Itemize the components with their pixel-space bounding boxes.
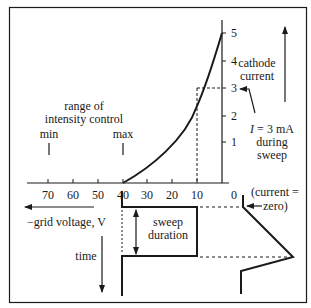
x-tick-60: 60 xyxy=(67,188,79,202)
grid-voltage-waveform xyxy=(122,191,197,296)
annotation-leader-line xyxy=(240,89,255,113)
cathode-label: cathode xyxy=(238,56,275,70)
y-tick-3: 3 xyxy=(231,81,237,95)
y-tick-2: 2 xyxy=(231,109,237,123)
x-tick-20: 20 xyxy=(166,188,178,202)
x-axis-tick-labels: 70 60 50 40 30 20 10 0 xyxy=(42,188,237,202)
x-tick-10: 10 xyxy=(191,188,203,202)
zero-annotation-line1: (current = xyxy=(251,185,299,199)
y-axis-ticks xyxy=(222,33,226,142)
current-annotation-line3: sweep xyxy=(257,148,287,162)
x-tick-50: 50 xyxy=(92,188,104,202)
x-axis-label: −grid voltage, V xyxy=(27,215,106,229)
transfer-curve xyxy=(123,33,222,183)
y-tick-1: 1 xyxy=(231,135,237,149)
y-tick-5: 5 xyxy=(231,26,237,40)
max-label: max xyxy=(113,127,134,141)
x-tick-70: 70 xyxy=(42,188,54,202)
min-label: min xyxy=(40,127,59,141)
y-axis-tick-labels: 5 4 3 2 1 xyxy=(231,26,237,149)
sweep-label: sweep xyxy=(153,215,183,229)
range-label-line1: range of xyxy=(64,99,104,113)
range-label-line2: intensity control xyxy=(45,112,124,126)
y-tick-4: 4 xyxy=(231,54,237,68)
time-label: time xyxy=(75,249,96,263)
current-annotation-line1: I = 3 mA xyxy=(249,122,294,136)
duration-label: duration xyxy=(148,228,188,242)
x-tick-0: 0 xyxy=(231,188,237,202)
x-tick-30: 30 xyxy=(141,188,153,202)
crt-transfer-diagram: 70 60 50 40 30 20 10 0 5 4 3 2 1 cathode… xyxy=(0,0,311,308)
zero-annotation-line2: zero) xyxy=(263,199,288,213)
current-annotation-line2: during xyxy=(256,135,287,149)
current-label: current xyxy=(240,69,275,83)
